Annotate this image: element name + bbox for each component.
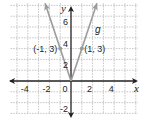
curve-segment bbox=[71, 3, 97, 81]
function-label-g: g bbox=[95, 24, 101, 35]
x-axis-label: x bbox=[133, 82, 139, 94]
x-tick-label: -4 bbox=[21, 84, 29, 94]
y-axis-label: y bbox=[60, 2, 66, 14]
x-tick-label: -2 bbox=[42, 84, 50, 94]
point-label-neg1-3: (-1, 3) bbox=[33, 44, 57, 54]
y-tick-label: 4 bbox=[63, 39, 68, 49]
y-tick-label: 2 bbox=[63, 60, 68, 70]
x-tick-label: 4 bbox=[109, 84, 114, 94]
y-tick-label: -2 bbox=[60, 104, 68, 114]
axes bbox=[9, 6, 138, 118]
grid bbox=[11, 3, 138, 113]
data-point bbox=[58, 47, 62, 51]
y-tick-label: 6 bbox=[63, 17, 68, 27]
x-tick-label: 2 bbox=[87, 84, 92, 94]
point-label-1-3: (1, 3) bbox=[84, 44, 105, 54]
data-point bbox=[80, 47, 84, 51]
graph: x y g (-1, 3) (1, 3) -4-2024-2246 bbox=[0, 0, 148, 127]
x-tick-label: 0 bbox=[62, 84, 67, 94]
